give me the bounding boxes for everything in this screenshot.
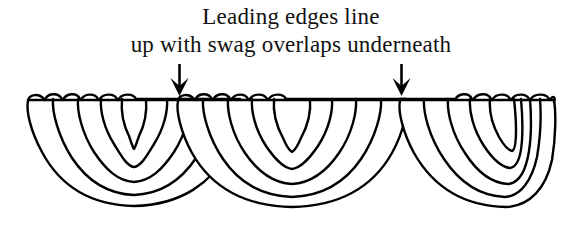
- arrow-down-icon-right: [393, 64, 411, 96]
- swag-diagram-figure: Leading edges line up with swag overlaps…: [0, 0, 582, 229]
- swag-illustration: [0, 0, 582, 229]
- swag-right: [400, 94, 556, 207]
- arrow-down-icon-left: [171, 64, 189, 96]
- swag-center: [178, 94, 407, 207]
